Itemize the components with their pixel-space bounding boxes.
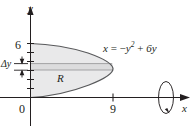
region-label-R: R <box>57 73 64 84</box>
y-axis-label: y <box>28 3 33 14</box>
shaded-region-R <box>31 44 114 98</box>
x-axis-arrowhead <box>180 94 190 101</box>
x-axis-label: x <box>182 103 187 114</box>
curve-equation-label: x = −y2 + 6y <box>103 41 157 54</box>
figure-container: y x 6 0 9 R Δy x = −y2 + 6y <box>0 0 194 130</box>
origin-label: 0 <box>19 103 25 115</box>
figure-canvas <box>0 0 194 130</box>
delta-y-label: Δy <box>1 59 11 69</box>
equation-part-equals: = <box>108 42 120 54</box>
equation-part-six-y: 6y <box>146 42 156 54</box>
y-tick-label-6: 6 <box>15 39 21 51</box>
revolution-arrowhead <box>165 108 170 114</box>
x-tick-label-9: 9 <box>110 103 116 115</box>
representative-strip <box>31 64 113 70</box>
equation-part-plus: + <box>134 42 146 54</box>
